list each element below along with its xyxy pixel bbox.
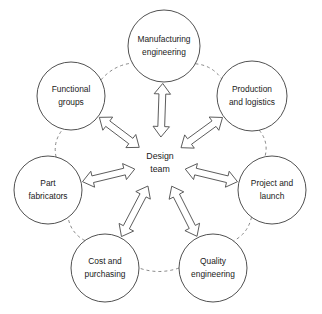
- node-label-line2-functional-groups: groups: [58, 97, 84, 107]
- node-functional-groups[interactable]: Functionalgroups: [37, 62, 105, 130]
- ring-link-manufacturing-engineering-to-production-and-logistics: [195, 64, 221, 79]
- node-label-line2-manufacturing-engineering: engineering: [142, 47, 186, 57]
- node-circle-functional-groups: [37, 62, 105, 130]
- ring-link-project-and-launch-to-quality-engineering: [234, 217, 252, 241]
- node-circle-production-and-logistics: [217, 61, 287, 131]
- spoke-arrow-to-functional-groups: [99, 117, 139, 147]
- node-cost-and-purchasing[interactable]: Cost andpurchasing: [71, 234, 139, 302]
- node-circle-project-and-launch: [238, 156, 306, 224]
- spoke-arrow-to-part-fabricators: [83, 164, 135, 188]
- node-label-line2-project-and-launch: launch: [260, 191, 285, 201]
- ring-link-part-fabricators-to-functional-groups: [55, 129, 63, 157]
- node-label-line2-production-and-logistics: and logistics: [229, 97, 275, 107]
- node-label-line2-part-fabricators: fabricators: [28, 191, 67, 201]
- node-manufacturing-engineering[interactable]: Manufacturingengineering: [128, 10, 200, 82]
- spoke-arrow-to-quality-engineering: [169, 186, 199, 236]
- node-circle-part-fabricators: [14, 156, 82, 224]
- node-quality-engineering[interactable]: Qualityengineering: [179, 234, 247, 302]
- spoke-arrow-to-cost-and-purchasing: [119, 186, 150, 237]
- node-circle-quality-engineering: [179, 234, 247, 302]
- hub-node: Designteam: [146, 151, 173, 174]
- node-circle-manufacturing-engineering: [128, 10, 200, 82]
- node-project-and-launch[interactable]: Project andlaunch: [238, 156, 306, 224]
- node-label-line1-functional-groups: Functional: [52, 84, 91, 94]
- node-label-line1-manufacturing-engineering: Manufacturing: [137, 34, 190, 44]
- node-label-line1-quality-engineering: Quality: [200, 256, 227, 266]
- ring-link-functional-groups-to-manufacturing-engineering: [101, 63, 132, 80]
- diagram-canvas: Designteam ManufacturingengineeringProdu…: [0, 0, 322, 314]
- spoke-arrow-to-manufacturing-engineering: [153, 83, 171, 137]
- hub-label-line1: Design: [146, 151, 173, 161]
- hub-label-line2: team: [150, 164, 170, 174]
- node-part-fabricators[interactable]: Partfabricators: [14, 156, 82, 224]
- node-label-line1-production-and-logistics: Production: [232, 84, 272, 94]
- node-label-line1-project-and-launch: Project and: [251, 178, 294, 188]
- node-label-line1-cost-and-purchasing: Cost and: [88, 256, 122, 266]
- node-circle-cost-and-purchasing: [71, 234, 139, 302]
- node-label-line2-cost-and-purchasing: purchasing: [85, 269, 126, 279]
- design-team-wheel-diagram: Designteam ManufacturingengineeringProdu…: [0, 0, 322, 314]
- ring-link-cost-and-purchasing-to-part-fabricators: [68, 217, 85, 240]
- spoke-arrow-to-project-and-launch: [185, 164, 237, 188]
- node-label-line2-quality-engineering: engineering: [191, 269, 235, 279]
- ring-link-quality-engineering-to-cost-and-purchasing: [139, 268, 179, 272]
- spoke-arrow-to-production-and-logistics: [181, 117, 222, 148]
- node-production-and-logistics[interactable]: Productionand logistics: [217, 61, 287, 131]
- node-label-line1-part-fabricators: Part: [40, 178, 56, 188]
- ring-link-production-and-logistics-to-project-and-launch: [259, 130, 266, 157]
